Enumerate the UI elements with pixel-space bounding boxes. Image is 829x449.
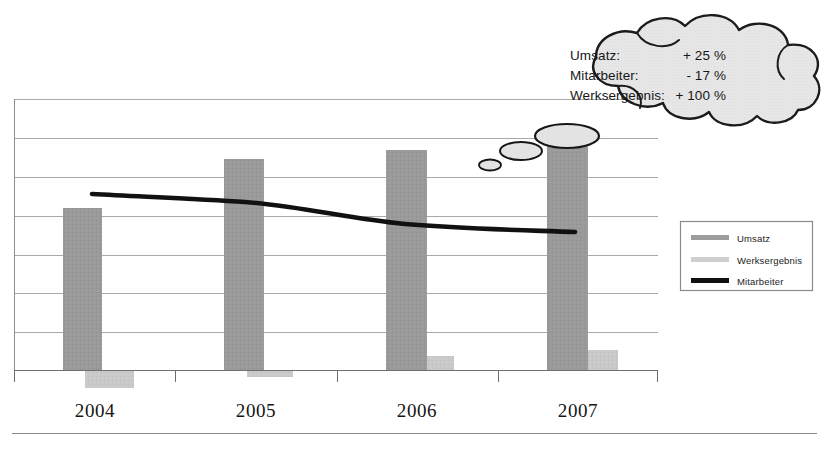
footer-divider <box>12 433 817 434</box>
series-mitarbeiter-line <box>92 194 575 232</box>
thought-bubble-medium <box>500 142 542 160</box>
bar-umsatz-2005 <box>224 159 264 370</box>
x-axis-label-2004: 2004 <box>55 400 135 422</box>
thought-bubble-large <box>535 124 599 148</box>
bar-werksergebnis-2004 <box>85 370 134 388</box>
callout-value-umsatz: + 25 % <box>674 48 726 63</box>
legend-swatch-werksergebnis <box>691 257 729 262</box>
x-axis-label-2006: 2006 <box>377 400 457 422</box>
callout-line-werksergebnis: Werksergebnis:+ 100 % <box>570 88 726 103</box>
legend-swatch-umsatz <box>691 235 729 240</box>
legend-label-mitarbeiter: Mitarbeiter <box>737 276 784 287</box>
callout-key-werksergebnis: Werksergebnis: <box>570 88 674 103</box>
x-axis-label-2005: 2005 <box>216 400 296 422</box>
callout-line-mitarbeiter: Mitarbeiter:- 17 % <box>570 68 726 83</box>
legend-label-werksergebnis: Werksergebnis <box>737 255 802 266</box>
thought-bubble-small <box>479 160 501 171</box>
callout-key-umsatz: Umsatz: <box>570 48 674 63</box>
legend-swatch-mitarbeiter <box>691 278 729 283</box>
callout-value-mitarbeiter: - 17 % <box>674 68 726 83</box>
callout-value-werksergebnis: + 100 % <box>674 88 726 103</box>
bar-umsatz-2006 <box>386 150 427 370</box>
chart-figure: 2004 2005 2006 2007 Umsatz:+ 25 % Mitarb… <box>0 0 829 449</box>
x-axis-label-2007: 2007 <box>538 400 618 422</box>
bar-umsatz-2004 <box>63 208 102 370</box>
bar-umsatz-2007 <box>547 141 588 370</box>
series-werksergebnis-bars <box>85 350 618 388</box>
legend-label-umsatz: Umsatz <box>737 233 770 244</box>
callout-line-umsatz: Umsatz:+ 25 % <box>570 48 726 63</box>
callout-key-mitarbeiter: Mitarbeiter: <box>570 68 674 83</box>
